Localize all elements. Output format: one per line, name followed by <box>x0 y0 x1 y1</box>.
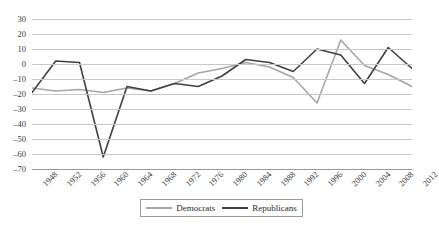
y-axis-tick-label: –60 <box>0 150 26 159</box>
x-axis-tick-label: 1952 <box>65 170 83 188</box>
gridline <box>32 124 412 125</box>
x-axis-tick-label: 1976 <box>207 170 225 188</box>
y-axis-tick-label: 20 <box>0 30 26 39</box>
x-axis-tick-label: 1988 <box>278 170 296 188</box>
gridline <box>32 94 412 95</box>
x-axis-tick-label: 2012 <box>421 170 439 188</box>
x-axis-tick-label: 2008 <box>397 170 415 188</box>
x-axis-tick-label: 2000 <box>350 170 368 188</box>
y-axis-tick-label: 10 <box>0 45 26 54</box>
x-axis-tick-label: 1968 <box>160 170 178 188</box>
x-axis-tick-label: 1960 <box>112 170 130 188</box>
y-axis-tick-label: 30 <box>0 15 26 24</box>
legend-entry-republicans: Republicans <box>222 204 297 213</box>
x-axis-tick-label: 1992 <box>302 170 320 188</box>
legend-entry-democrats: Democrats <box>146 204 215 213</box>
legend-label: Republicans <box>252 204 297 213</box>
x-axis-tick-label: 1964 <box>136 170 154 188</box>
x-axis-tick-label: 1956 <box>88 170 106 188</box>
gridline <box>32 34 412 35</box>
legend-swatch-icon <box>146 207 172 209</box>
gridline <box>32 49 412 50</box>
x-axis-tick-label: 1972 <box>183 170 201 188</box>
gridline <box>32 139 412 140</box>
gridline <box>32 64 412 65</box>
plot-area <box>32 19 412 169</box>
x-axis-tick-label: 2004 <box>373 170 391 188</box>
chart-legend: DemocratsRepublicans <box>140 199 303 217</box>
x-axis-tick-label: 1980 <box>231 170 249 188</box>
x-axis-tick-label: 1996 <box>326 170 344 188</box>
gridline <box>32 19 412 20</box>
y-axis-tick-label: –30 <box>0 105 26 114</box>
x-axis-tick-label: 1948 <box>41 170 59 188</box>
gridline <box>32 109 412 110</box>
gridline <box>32 154 412 155</box>
gridline <box>32 79 412 80</box>
legend-label: Democrats <box>176 204 215 213</box>
y-axis-tick-label: 0 <box>0 60 26 69</box>
y-axis: 3020100–10–20–30–40–50–60–70 <box>0 19 28 169</box>
y-axis-tick-label: –50 <box>0 135 26 144</box>
y-axis-tick-label: –70 <box>0 165 26 174</box>
y-axis-tick-label: –40 <box>0 120 26 129</box>
legend-swatch-icon <box>222 207 248 209</box>
y-axis-tick-label: –20 <box>0 90 26 99</box>
x-axis-tick-label: 1984 <box>255 170 273 188</box>
y-axis-tick-label: –10 <box>0 75 26 84</box>
